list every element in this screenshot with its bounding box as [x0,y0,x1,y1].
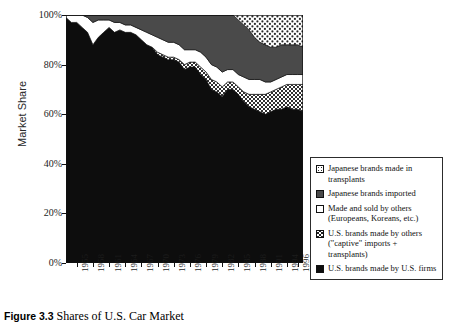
x-tick-label: 1973 [177,254,187,272]
x-tick-label: 1988 [258,254,268,272]
area-layers [66,15,303,263]
figure-number: Figure 3.3 [4,310,54,322]
x-tick-label: 1991 [274,254,284,272]
x-tick-label: 1961 [113,254,123,272]
chart-legend: Japanese brands made in transplantsJapan… [310,157,443,280]
x-tick-mark [238,263,239,267]
x-tick-label: 1955 [80,254,90,272]
legend-item[interactable]: U.S. brands made by U.S. firms [316,263,437,274]
legend-item[interactable]: U.S. brands made by others ("captive" im… [316,228,437,260]
legend-item-label: Japanese brands made in transplants [328,163,437,184]
x-tick-mark [125,263,126,267]
x-tick-label: 1958 [96,254,106,272]
figure-caption: Figure 3.3 Shares of U.S. Car Market [4,309,184,324]
y-tick-label: 40% [44,158,62,169]
y-axis-tick-labels: 0%20%40%60%80%100% [14,0,62,268]
x-tick-mark [190,263,191,267]
y-tick-label: 100% [39,9,62,20]
crosshatch-swatch [316,230,324,238]
legend-item[interactable]: Made and sold by others (Europeans, Kore… [316,203,437,224]
x-tick-mark [222,263,223,267]
x-tick-mark [93,263,94,267]
figure-root: Market Share 0%20%40%60%80%100% 19551958… [0,0,449,329]
x-tick-label: 1970 [161,254,171,272]
x-tick-mark [158,263,159,267]
legend-item-label: Made and sold by others (Europeans, Kore… [328,203,437,224]
x-tick-label: 1964 [129,254,139,272]
figure-caption-text: Shares of U.S. Car Market [57,309,184,323]
y-tick-label: 60% [44,108,62,119]
x-tick-label: 1979 [210,254,220,272]
x-tick-label: 1976 [193,254,203,272]
x-tick-mark [109,263,110,267]
legend-item-label: U.S. brands made by others ("captive" im… [328,228,437,260]
x-tick-mark [141,263,142,267]
chart-plot-area [66,15,303,263]
y-tick-label: 20% [44,207,62,218]
dark-gray-swatch [316,190,324,198]
white-swatch [316,205,324,213]
x-tick-mark [255,263,256,267]
x-tick-label: 1967 [145,254,155,272]
black-swatch [316,265,324,273]
x-tick-mark [77,263,78,267]
x-tick-mark [174,263,175,267]
legend-item-label: U.S. brands made by U.S. firms [328,263,436,274]
stacked-area-chart [66,15,303,263]
x-tick-mark [298,263,299,267]
x-tick-label: 1994 [290,254,300,272]
x-tick-mark [287,263,288,267]
legend-item-label: Japanese brands imported [328,188,416,199]
legend-item[interactable]: Japanese brands imported [316,188,437,199]
x-tick-label: 1982 [226,254,236,272]
x-tick-mark [271,263,272,267]
dotted-pattern-swatch [316,165,324,173]
x-tick-mark [206,263,207,267]
legend-item[interactable]: Japanese brands made in transplants [316,163,437,184]
x-tick-label: 1985 [242,254,252,272]
y-tick-label: 80% [44,59,62,70]
